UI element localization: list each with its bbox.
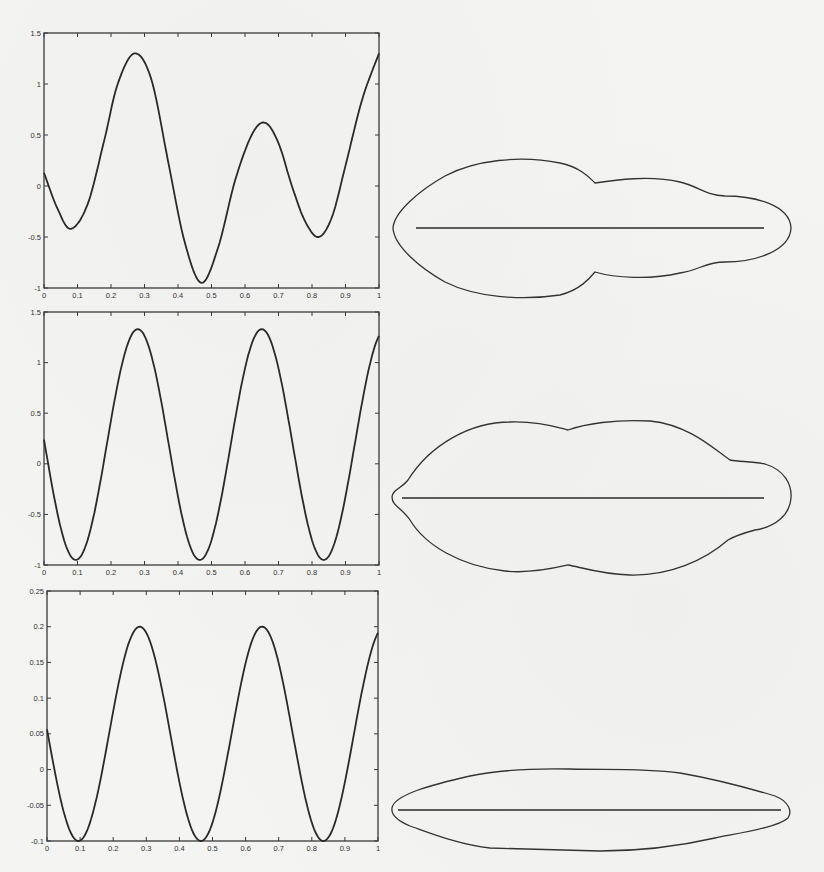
- y-tick-label: 0.2: [34, 622, 44, 631]
- y-tick-label: 0: [40, 765, 44, 774]
- x-tick-label: 0.5: [207, 844, 217, 853]
- y-tick-label: -0.05: [27, 801, 44, 810]
- chart-panel-3: 00.10.20.30.40.50.60.70.80.91-0.1-0.0500…: [27, 587, 380, 854]
- y-tick-label: 1: [37, 80, 41, 89]
- x-tick-label: 0.7: [273, 291, 283, 300]
- data-curve: [47, 627, 378, 841]
- x-tick-label: 0: [42, 291, 46, 300]
- y-tick-label: 0.5: [31, 409, 41, 418]
- x-tick-label: 0.9: [340, 844, 350, 853]
- x-tick-label: 0.6: [240, 844, 250, 853]
- plot-area-frame: [44, 312, 379, 565]
- plot-area-frame: [47, 591, 378, 841]
- x-tick-label: 0.3: [139, 568, 149, 577]
- x-tick-label: 0.8: [307, 568, 317, 577]
- x-tick-label: 0.2: [108, 844, 118, 853]
- x-tick-label: 0.9: [340, 568, 350, 577]
- y-tick-label: 0.05: [29, 729, 44, 738]
- x-tick-label: 1: [376, 844, 380, 853]
- y-tick-label: 0.25: [29, 587, 44, 596]
- x-tick-label: 1: [377, 568, 381, 577]
- x-tick-label: 0.2: [106, 568, 116, 577]
- x-tick-label: 0.1: [75, 844, 85, 853]
- chart-panel-2: 00.10.20.30.40.50.60.70.80.91-1-0.500.51…: [28, 308, 381, 578]
- x-tick-label: 0.8: [307, 291, 317, 300]
- figure: 00.10.20.30.40.50.60.70.80.91-1-0.500.51…: [0, 0, 824, 872]
- x-tick-label: 0.1: [72, 568, 82, 577]
- data-curve: [44, 53, 379, 283]
- x-tick-label: 0.3: [139, 291, 149, 300]
- x-tick-label: 0: [45, 844, 49, 853]
- closed-curve-shape-2: [392, 421, 791, 575]
- y-tick-label: 1: [37, 358, 41, 367]
- x-tick-label: 0.6: [240, 291, 250, 300]
- y-tick-label: 1.5: [31, 29, 41, 38]
- x-tick-label: 0.4: [173, 568, 183, 577]
- plot-area-frame: [44, 33, 379, 288]
- y-tick-label: -0.5: [28, 510, 41, 519]
- y-tick-label: 0.5: [31, 131, 41, 140]
- x-tick-label: 0.5: [206, 568, 216, 577]
- x-tick-label: 0.2: [106, 291, 116, 300]
- x-tick-label: 0.6: [240, 568, 250, 577]
- x-tick-label: 0.3: [141, 844, 151, 853]
- y-tick-label: 0.15: [29, 658, 44, 667]
- chart-panel-1: 00.10.20.30.40.50.60.70.80.91-1-0.500.51…: [28, 29, 381, 301]
- closed-curve-shape-3: [392, 769, 790, 851]
- y-tick-label: -1: [34, 284, 41, 293]
- x-tick-label: 0.9: [340, 291, 350, 300]
- closed-curve-shape-1: [393, 159, 791, 297]
- y-tick-label: -0.1: [31, 837, 44, 846]
- x-tick-label: 0.4: [174, 844, 184, 853]
- x-tick-label: 0.7: [273, 844, 283, 853]
- x-tick-label: 0.1: [72, 291, 82, 300]
- x-tick-label: 0.5: [206, 291, 216, 300]
- x-tick-label: 0: [42, 568, 46, 577]
- y-tick-label: 0: [37, 182, 41, 191]
- y-tick-label: 1.5: [31, 308, 41, 317]
- x-tick-label: 0.4: [173, 291, 183, 300]
- data-curve: [44, 329, 379, 560]
- y-tick-label: -0.5: [28, 233, 41, 242]
- x-tick-label: 0.7: [273, 568, 283, 577]
- y-tick-label: 0.1: [34, 694, 44, 703]
- x-tick-label: 1: [377, 291, 381, 300]
- y-tick-label: 0: [37, 459, 41, 468]
- y-tick-label: -1: [34, 561, 41, 570]
- x-tick-label: 0.8: [307, 844, 317, 853]
